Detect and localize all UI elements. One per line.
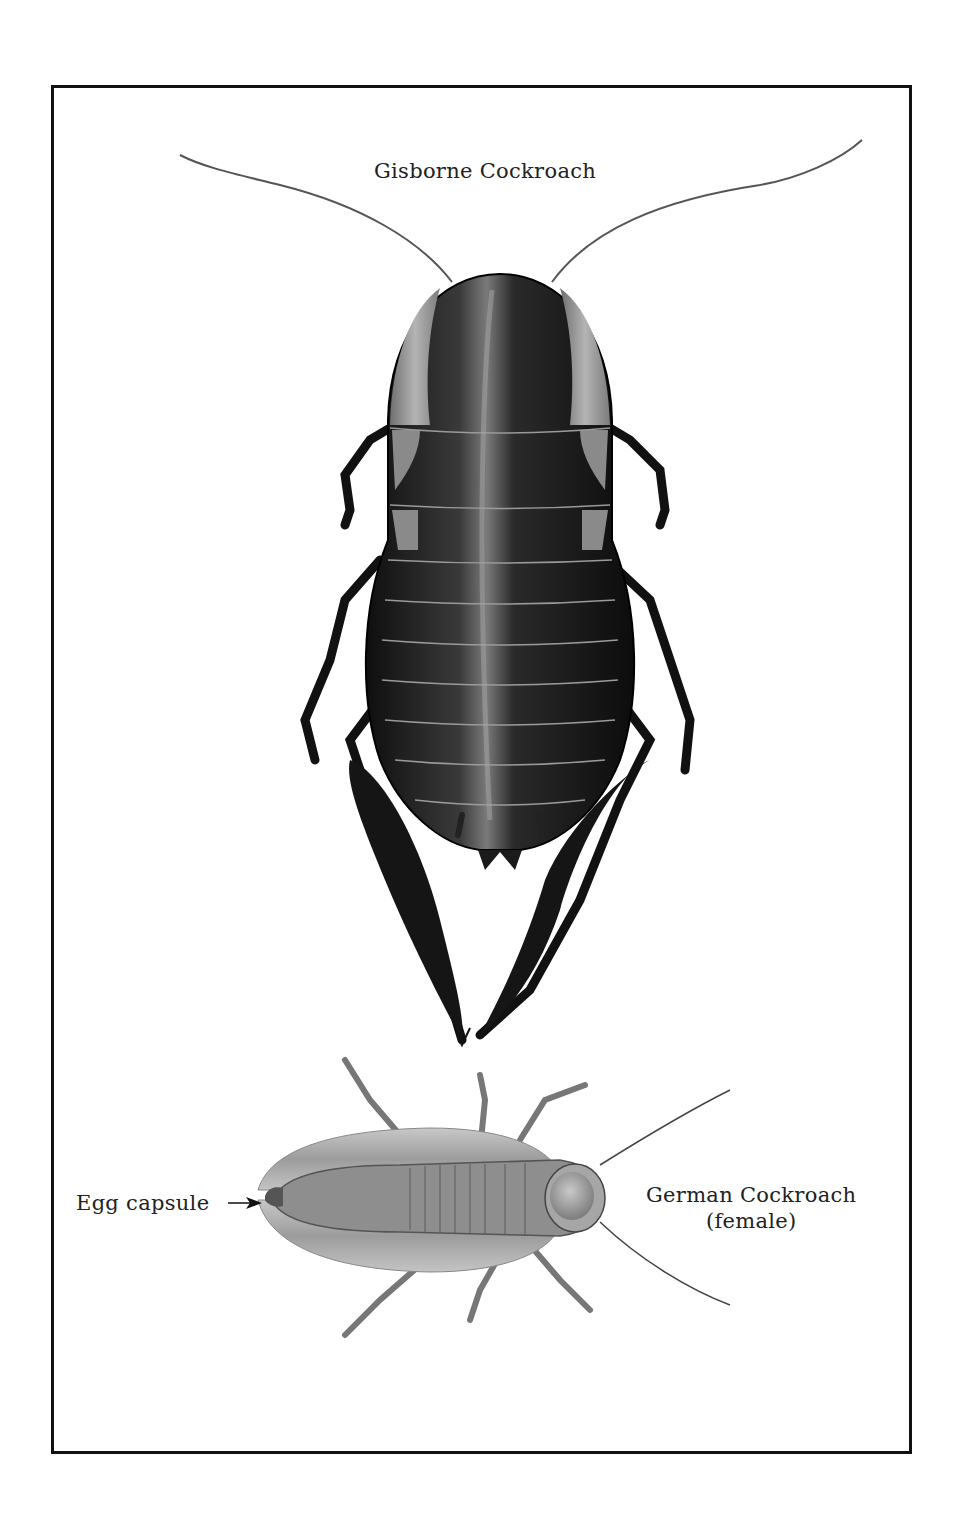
- cockroach-illustrations: [0, 0, 959, 1530]
- german-cockroach-label: German Cockroach (female): [646, 1182, 856, 1235]
- arrow-right-icon: [228, 1197, 262, 1209]
- egg-capsule-label: Egg capsule: [76, 1190, 209, 1216]
- german-cockroach-sex: (female): [646, 1208, 856, 1234]
- antenna-right: [552, 140, 862, 282]
- gisborne-cockroach-label: Gisborne Cockroach: [374, 158, 596, 184]
- gisborne-cockroach: [180, 140, 862, 1045]
- german-cockroach-name: German Cockroach: [646, 1182, 856, 1208]
